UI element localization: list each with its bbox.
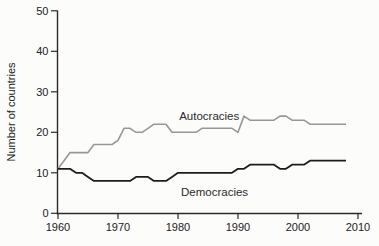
series-inline-labels: AutocraciesDemocracies — [179, 110, 248, 198]
x-axis-ticks — [58, 214, 358, 220]
x-tick-label: 1960 — [46, 221, 70, 233]
x-axis-tick-labels: 196019701980199020002010 — [46, 221, 370, 233]
line-chart-figure: 01020304050 196019701980199020002010 Num… — [0, 0, 379, 246]
y-tick-label: 20 — [36, 126, 48, 138]
y-tick-label: 40 — [36, 45, 48, 57]
y-tick-label: 10 — [36, 167, 48, 179]
y-tick-label: 0 — [42, 207, 48, 219]
x-tick-label: 2000 — [286, 221, 310, 233]
y-tick-label: 50 — [36, 5, 48, 17]
series-label-autocracies: Autocracies — [179, 110, 239, 122]
series-line-autocracies — [58, 116, 346, 169]
y-tick-label: 30 — [36, 86, 48, 98]
x-tick-label: 1980 — [166, 221, 190, 233]
x-tick-label: 2010 — [346, 221, 370, 233]
y-axis-title: Number of countries — [5, 62, 17, 162]
series-label-democracies: Democracies — [181, 186, 248, 198]
series-line-democracies — [58, 161, 346, 181]
data-series-lines — [58, 116, 346, 181]
x-tick-label: 1990 — [226, 221, 250, 233]
y-axis-ticks — [51, 11, 57, 214]
y-axis-tick-labels: 01020304050 — [36, 5, 48, 220]
chart-canvas: 01020304050 196019701980199020002010 Num… — [0, 0, 379, 246]
x-tick-label: 1970 — [106, 221, 130, 233]
